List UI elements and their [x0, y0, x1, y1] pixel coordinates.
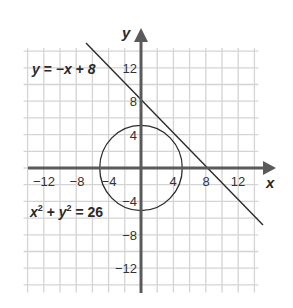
x-tick-label: −12	[33, 174, 55, 189]
y-tick-label: −12	[115, 261, 137, 276]
circle-equation-label: x2 + y2 = 26	[29, 203, 103, 220]
x-axis-arrow-icon	[263, 161, 276, 175]
x-tick-label: 4	[169, 174, 176, 189]
y-tick-label: 4	[130, 128, 137, 143]
y-tick-label: 12	[123, 61, 137, 76]
y-tick-label: −4	[122, 194, 137, 209]
x-tick-label: −8	[70, 174, 85, 189]
y-tick-label: −8	[122, 228, 137, 243]
x-axis-label: x	[265, 174, 275, 191]
y-tick-label: 8	[130, 94, 137, 109]
coordinate-plane: y x −12−8−44812 1284−4−8−12 y = −x + 8 x…	[0, 0, 293, 308]
x-tick-label: −4	[102, 174, 117, 189]
line-equation-label: y = −x + 8	[31, 61, 96, 77]
line-eq-rhs: −x + 8	[56, 61, 96, 77]
y-axis-arrow-icon	[134, 28, 148, 42]
x-tick-labels: −12−8−44812	[33, 174, 245, 189]
circle-eq-rhs: = 26	[72, 204, 104, 220]
x-tick-label: 8	[202, 174, 209, 189]
x-tick-label: 12	[231, 174, 245, 189]
line-eq-equals: =	[40, 61, 56, 77]
y-axis-label: y	[121, 24, 131, 41]
circle-eq-plus: +	[43, 204, 59, 220]
